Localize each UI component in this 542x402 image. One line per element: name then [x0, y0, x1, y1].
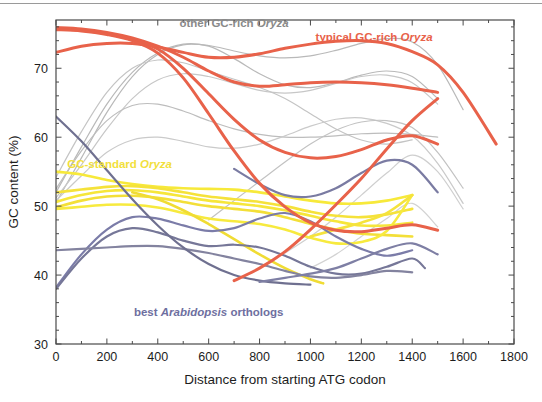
- x-tick-label: 200: [96, 350, 117, 364]
- y-axis-title: GC content (%): [6, 135, 21, 228]
- y-tick-label: 50: [34, 200, 48, 214]
- x-tick-label: 400: [147, 350, 168, 364]
- x-tick-label: 1200: [347, 350, 375, 364]
- y-tick-label: 70: [34, 62, 48, 76]
- annotation-gc-standard-oryza: GC-standard Oryza: [67, 158, 172, 170]
- x-tick-label: 1400: [398, 350, 426, 364]
- x-tick-label: 800: [249, 350, 270, 364]
- annotation-typical-gc-rich-oryza: typical GC-rich Oryza: [316, 31, 434, 43]
- y-tick-label: 40: [34, 269, 48, 283]
- y-tick-label: 30: [34, 338, 48, 352]
- figure-canvas: 0200400600800100012001400160018003040506…: [0, 0, 542, 402]
- x-tick-label: 1600: [449, 350, 477, 364]
- gc-content-line-chart: 0200400600800100012001400160018003040506…: [0, 0, 542, 402]
- x-tick-label: 1800: [500, 350, 528, 364]
- x-tick-label: 0: [53, 350, 60, 364]
- y-tick-label: 60: [34, 131, 48, 145]
- annotation-best-arabidopsis-orthologs: best Arabidopsis orthologs: [134, 306, 284, 318]
- x-tick-label: 1000: [297, 350, 325, 364]
- x-axis-title: Distance from starting ATG codon: [184, 372, 386, 387]
- annotation-other-gc-rich-oryza: other GC-rich Oryza: [179, 17, 289, 29]
- x-tick-label: 600: [198, 350, 219, 364]
